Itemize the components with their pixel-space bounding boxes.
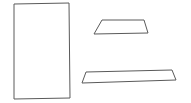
sketch-canvas xyxy=(0,0,191,103)
upper-trapezoid-shape xyxy=(94,20,148,34)
tall-rectangle-shape xyxy=(14,3,70,99)
lower-trapezoid-shape xyxy=(82,70,176,83)
